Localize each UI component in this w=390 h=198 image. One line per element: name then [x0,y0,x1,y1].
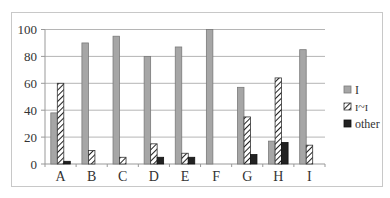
bar---d [151,144,158,164]
y-tick-label: 60 [24,76,37,91]
legend-label: other [355,117,380,131]
y-tick-labels: 020406080100 [18,22,38,172]
bar-i-e [175,47,182,164]
bar-other-d [157,157,164,164]
bars [51,30,313,165]
y-tick-label: 0 [31,157,38,172]
legend-label: ɪ~ɪ [355,100,368,114]
bar-i-g [237,87,244,164]
y-tick-label: 20 [24,130,37,145]
bar-i-h [269,141,276,164]
bar-other-h [282,142,289,164]
bar---b [88,151,95,164]
x-tick-label: F [212,169,220,184]
bar-other-g [250,155,257,164]
legend: Iɪ~ɪother [344,83,380,131]
legend-swatch [344,103,351,110]
bar-i-f [206,30,213,165]
y-tick-label: 100 [18,22,38,37]
x-tick-label: B [87,169,96,184]
bar-chart: 020406080100 ABCDEFGHI Iɪ~ɪother [0,0,390,198]
legend-swatch [344,86,351,93]
bar-i-a [51,113,58,164]
x-tick-labels: ABCDEFGHI [55,169,312,184]
bar-i-b [82,43,89,164]
x-tick-label: D [149,169,159,184]
legend-swatch [344,120,351,127]
x-tick-label: C [118,169,127,184]
bar---h [275,78,282,164]
x-tick-label: H [273,169,283,184]
bar---i [306,145,313,164]
x-tick-label: E [181,169,190,184]
bar-i-d [144,56,151,164]
x-tick-label: G [242,169,252,184]
bar-i-i [300,50,307,164]
bar-other-a [64,161,71,164]
bar-i-c [113,36,120,164]
bar---c [120,157,127,164]
bar---a [57,83,64,164]
y-tick-label: 80 [24,49,37,64]
x-tick-label: A [55,169,66,184]
x-tick-label: I [307,169,312,184]
bar---e [182,153,189,164]
bar---g [244,117,251,164]
y-tick-label: 40 [24,103,37,118]
bar-other-e [188,157,195,164]
legend-label: I [355,83,359,97]
